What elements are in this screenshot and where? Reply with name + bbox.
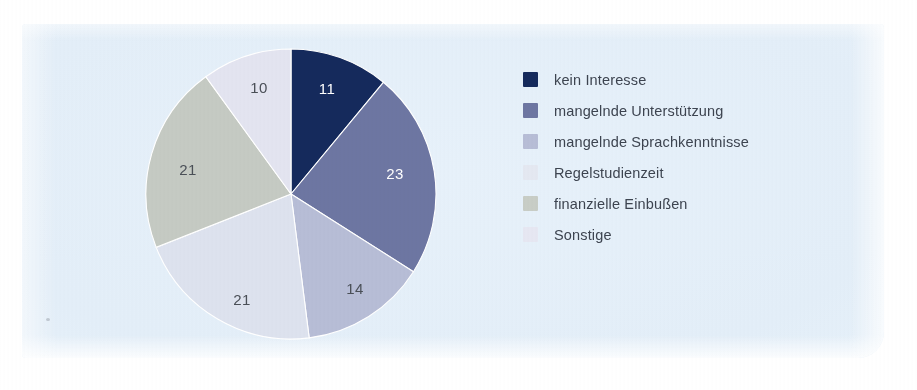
legend-item-label: Regelstudienzeit [554,165,664,181]
legend-swatch-icon [523,72,538,87]
figure-root: 112314212110 kein Interesse mangelnde Un… [0,0,917,390]
pie-slice-value-label: 11 [319,80,335,97]
legend-swatch-icon [523,165,538,180]
legend-item[interactable]: Regelstudienzeit [523,157,823,188]
legend-item[interactable]: Sonstige [523,219,823,250]
pie-chart-svg: 112314212110 [145,48,437,340]
legend-item[interactable]: mangelnde Unterstützung [523,95,823,126]
pie-slice-value-label: 23 [386,165,404,182]
legend-item-label: mangelnde Sprachkenntnisse [554,134,749,150]
legend-item-label: Sonstige [554,227,612,243]
legend-swatch-icon [523,103,538,118]
scan-artifact-speck [46,318,50,321]
pie-slice-value-label: 14 [346,280,364,297]
pie-slice-value-label: 21 [179,161,197,178]
pie-slice-value-label: 10 [250,79,268,96]
legend: kein Interesse mangelnde Unterstützung m… [523,64,823,250]
legend-swatch-icon [523,196,538,211]
legend-item[interactable]: finanzielle Einbußen [523,188,823,219]
legend-item-label: kein Interesse [554,72,646,88]
pie-slice-value-label: 21 [233,291,251,308]
legend-item[interactable]: mangelnde Sprachkenntnisse [523,126,823,157]
legend-item-label: mangelnde Unterstützung [554,103,724,119]
pie-slice-group [146,49,436,339]
legend-swatch-icon [523,227,538,242]
legend-swatch-icon [523,134,538,149]
pie-chart: 112314212110 [145,48,437,340]
legend-item[interactable]: kein Interesse [523,64,823,95]
legend-item-label: finanzielle Einbußen [554,196,688,212]
